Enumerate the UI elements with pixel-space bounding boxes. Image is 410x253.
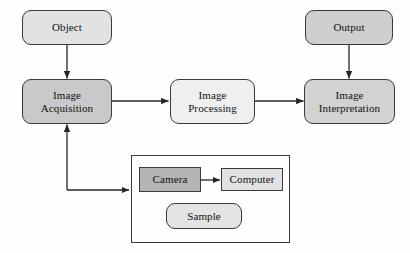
node-image-acquisition-label-line1: Image (41, 89, 93, 102)
node-output[interactable]: Output (305, 10, 393, 45)
node-image-interpretation-label: Image Interpretation (316, 89, 383, 115)
node-sample[interactable]: Sample (166, 203, 242, 229)
node-image-interpretation[interactable]: Image Interpretation (304, 79, 395, 124)
diagram-canvas: Object Output Image Acquisition Image Pr… (0, 0, 410, 253)
edge-apparatus-to-image-acquisition (67, 125, 129, 191)
node-image-processing[interactable]: Image Processing (170, 79, 255, 124)
node-camera[interactable]: Camera (139, 167, 201, 192)
node-image-interpretation-label-line2: Interpretation (319, 102, 380, 115)
node-image-acquisition[interactable]: Image Acquisition (22, 79, 112, 124)
node-sample-label: Sample (184, 210, 224, 223)
node-image-processing-label: Image Processing (185, 89, 240, 115)
node-object[interactable]: Object (22, 10, 112, 45)
node-image-processing-label-line2: Processing (188, 102, 237, 115)
node-object-label: Object (49, 21, 85, 34)
node-computer-label: Computer (227, 173, 278, 186)
node-image-processing-label-line1: Image (188, 89, 237, 102)
node-camera-label: Camera (150, 173, 191, 186)
node-image-acquisition-label: Image Acquisition (38, 89, 96, 115)
node-image-acquisition-label-line2: Acquisition (41, 102, 93, 115)
node-image-interpretation-label-line1: Image (319, 89, 380, 102)
node-output-label: Output (330, 21, 367, 34)
node-computer[interactable]: Computer (221, 168, 283, 191)
